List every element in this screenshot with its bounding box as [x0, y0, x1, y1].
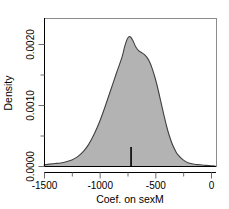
x-tick-label: -1500 [32, 180, 58, 191]
x-tick-label: -1000 [87, 180, 113, 191]
x-axis-tick-labels: -1500-1000-5000 [32, 180, 215, 191]
y-tick-label: 0.0020 [25, 29, 36, 60]
x-axis-title: Coef. on sexM [96, 193, 164, 205]
x-axis-ticks [45, 173, 212, 179]
chart-figure: 0.00000.00100.0020 -1500-1000-5000 Densi… [0, 0, 229, 209]
y-axis-title: Density [2, 75, 14, 111]
y-tick-label: 0.0010 [25, 90, 36, 121]
x-tick-label: -500 [146, 180, 166, 191]
density-plot-svg: 0.00000.00100.0020 -1500-1000-5000 Densi… [0, 0, 229, 209]
density-area [44, 37, 215, 166]
y-tick-label: 0.0000 [25, 151, 36, 182]
x-tick-label: 0 [209, 180, 215, 191]
y-axis-ticks [39, 45, 45, 167]
y-axis-tick-labels: 0.00000.00100.0020 [25, 29, 36, 182]
